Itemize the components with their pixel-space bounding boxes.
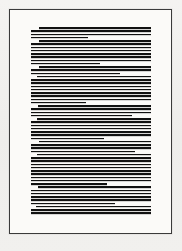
text-line [31, 193, 151, 195]
text-line [31, 199, 151, 201]
text-line [31, 212, 151, 214]
body-text-column [31, 27, 151, 217]
text-line [31, 92, 151, 94]
text-line [39, 40, 151, 42]
text-line [31, 82, 151, 84]
text-line [31, 34, 151, 36]
text-line [31, 79, 151, 81]
text-line [39, 27, 151, 29]
text-line [31, 170, 151, 172]
text-line [31, 138, 104, 140]
text-line [31, 30, 151, 32]
text-line [31, 173, 151, 175]
text-line [31, 160, 151, 162]
text-line [31, 43, 151, 45]
text-line [31, 56, 151, 58]
text-line [31, 53, 151, 55]
text-line [31, 69, 151, 71]
text-line [31, 183, 107, 185]
text-line [31, 147, 151, 149]
text-line [31, 134, 151, 136]
text-line [31, 177, 151, 179]
text-line [31, 164, 151, 166]
text-line [37, 118, 151, 120]
text-line [36, 206, 151, 208]
document-page-sheet[interactable] [9, 9, 172, 234]
text-line [31, 196, 151, 198]
text-line [31, 37, 88, 39]
text-line [31, 89, 151, 91]
text-line [31, 125, 151, 127]
text-line [31, 102, 86, 104]
text-line [37, 154, 151, 156]
text-line [31, 128, 151, 130]
page-thumbnail-root [0, 0, 182, 251]
text-line [31, 63, 100, 65]
text-line [31, 86, 151, 88]
text-line [31, 209, 151, 211]
text-line [31, 203, 115, 205]
text-line [31, 60, 151, 62]
text-line [31, 50, 151, 52]
text-line [31, 144, 151, 146]
text-line [39, 141, 151, 143]
text-line [31, 157, 151, 159]
text-line [38, 105, 151, 107]
text-line [31, 112, 151, 114]
text-line [31, 108, 151, 110]
text-line [31, 190, 151, 192]
text-line [31, 167, 151, 169]
text-line [31, 99, 151, 101]
text-line [31, 180, 151, 182]
text-line [31, 115, 132, 117]
text-line [39, 66, 151, 68]
text-line [31, 131, 151, 133]
text-line [38, 186, 151, 188]
text-line [31, 73, 120, 75]
text-line [37, 76, 151, 78]
text-line [31, 47, 151, 49]
text-line [31, 121, 151, 123]
text-line [31, 151, 135, 153]
text-line [31, 95, 151, 97]
